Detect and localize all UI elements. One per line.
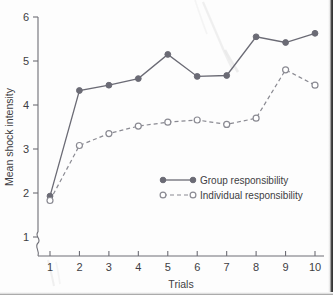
x-tick-label: 5 bbox=[165, 261, 171, 273]
data-point-marker bbox=[283, 40, 289, 46]
x-axis-title: Trials bbox=[168, 278, 193, 290]
chart-legend: Group responsibilityIndividual responsib… bbox=[160, 175, 303, 201]
legend-marker bbox=[160, 177, 166, 183]
series-line bbox=[50, 33, 315, 196]
line-chart: 6 5 4 3 2 1 12345678910 Mean shock inten… bbox=[0, 0, 333, 295]
legend-entry-1[interactable]: Group responsibility bbox=[160, 175, 288, 186]
data-point-marker bbox=[77, 88, 83, 94]
x-tick-label: 4 bbox=[135, 261, 141, 273]
x-axis-ticks bbox=[50, 251, 315, 256]
x-tick-label: 7 bbox=[224, 261, 230, 273]
legend-marker bbox=[190, 192, 196, 198]
data-point-marker bbox=[106, 131, 112, 137]
x-tick-label: 1 bbox=[47, 261, 53, 273]
x-tick-label: 8 bbox=[253, 261, 259, 273]
x-tick-label: 2 bbox=[76, 261, 82, 273]
data-point-marker bbox=[165, 52, 171, 58]
data-point-marker bbox=[135, 123, 141, 129]
legend-label: Individual responsibility bbox=[200, 190, 303, 201]
data-point-marker bbox=[312, 82, 318, 88]
data-point-marker bbox=[253, 34, 259, 40]
data-point-marker bbox=[283, 67, 289, 73]
y-tick-label: 3 bbox=[23, 143, 29, 155]
figure-canvas: 6 5 4 3 2 1 12345678910 Mean shock inten… bbox=[0, 0, 333, 295]
y-axis-title: Mean shock intensity bbox=[3, 87, 15, 186]
x-axis-tick-labels: 12345678910 bbox=[47, 261, 321, 273]
y-tick-label: 1 bbox=[23, 231, 29, 243]
y-tick-label: 4 bbox=[23, 99, 29, 111]
y-axis-tick-labels: 6 5 4 3 2 1 bbox=[23, 11, 29, 243]
data-point-marker bbox=[165, 119, 171, 125]
legend-marker bbox=[190, 177, 196, 183]
x-tick-label: 6 bbox=[194, 261, 200, 273]
y-tick-label: 5 bbox=[23, 55, 29, 67]
x-tick-label: 10 bbox=[309, 261, 321, 273]
data-point-marker bbox=[253, 115, 259, 121]
data-point-marker bbox=[194, 117, 200, 123]
data-point-marker bbox=[194, 74, 200, 80]
legend-label: Group responsibility bbox=[200, 175, 288, 186]
data-point-marker bbox=[76, 143, 82, 149]
data-point-marker bbox=[224, 121, 230, 127]
legend-entry-2[interactable]: Individual responsibility bbox=[160, 190, 303, 201]
legend-marker bbox=[160, 192, 166, 198]
data-point-marker bbox=[135, 76, 141, 82]
data-point-marker bbox=[47, 198, 53, 204]
x-tick-label: 3 bbox=[106, 261, 112, 273]
y-axis-ticks bbox=[33, 17, 38, 237]
y-tick-label: 6 bbox=[23, 11, 29, 23]
x-tick-label: 9 bbox=[282, 261, 288, 273]
data-point-marker bbox=[106, 82, 112, 88]
axis-break-symbol bbox=[37, 232, 40, 256]
y-tick-label: 2 bbox=[23, 187, 29, 199]
data-point-marker bbox=[224, 73, 230, 79]
data-point-marker bbox=[312, 30, 318, 36]
